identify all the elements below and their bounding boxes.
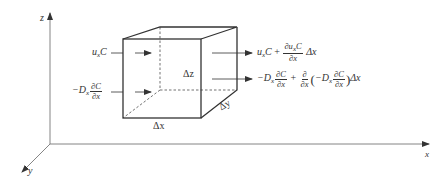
fraction-denominator: ∂x — [276, 80, 286, 89]
hidden-edge — [123, 90, 160, 118]
dx-factor: Δx — [350, 72, 360, 83]
fraction-denominator: ∂x — [334, 80, 344, 89]
z-axis-label: z — [40, 13, 44, 23]
operator-denominator: ∂x — [300, 80, 310, 89]
concentration-symbol: C — [265, 46, 272, 57]
numerator-tail: C — [296, 41, 302, 51]
outflow-diffusive-label: −Dx∂C∂x + ∂∂x(−Dx∂C∂x)Δx — [257, 70, 361, 88]
y-axis-label: y — [28, 166, 32, 176]
diagram-canvas — [0, 0, 447, 185]
dx-label: Δx — [153, 121, 164, 131]
concentration-symbol: C — [100, 46, 107, 57]
x-axis-label: x — [425, 150, 429, 159]
derivative-operator: ∂∂x — [300, 70, 310, 88]
numerator-base: ∂u — [284, 41, 292, 51]
inflow-advective-label: uxC — [92, 47, 107, 59]
fraction-denominator: ∂x — [91, 92, 101, 101]
diffusivity-symbol: −D — [72, 84, 86, 95]
fraction-denominator: ∂x — [288, 54, 298, 63]
diffusivity-symbol: −D — [257, 72, 271, 83]
derivative-fraction: ∂C∂x — [90, 82, 102, 100]
subscript: x — [86, 89, 89, 97]
dz-label: Δz — [183, 69, 194, 79]
y-axis — [22, 144, 50, 172]
inner-diffusivity-symbol: −D — [315, 72, 329, 83]
outflow-advective-label: uxC + ∂uxC∂x Δx — [257, 42, 316, 63]
top-face-edges — [123, 27, 237, 39]
plus-sign: + — [290, 72, 296, 83]
derivative-fraction: ∂C∂x — [275, 70, 287, 88]
derivative-fraction: ∂uxC∂x — [283, 42, 302, 63]
subscript: x — [271, 77, 274, 85]
dx-factor: Δx — [306, 46, 316, 57]
inflow-diffusive-label: −Dx∂C∂x — [72, 82, 103, 100]
flux-arrows — [111, 53, 252, 92]
inner-derivative-fraction: ∂C∂x — [333, 70, 345, 88]
subscript: x — [329, 77, 332, 85]
plus-sign: + — [274, 46, 280, 57]
